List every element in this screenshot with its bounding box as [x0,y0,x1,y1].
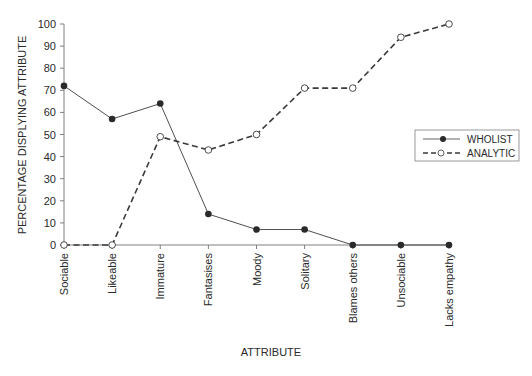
data-point [109,242,116,249]
filled-circle-marker-icon [440,136,446,142]
data-point [157,100,164,107]
data-point [301,85,308,92]
y-tick-label: 50 [44,129,56,141]
y-tick-label: 80 [44,62,56,74]
y-tick-label: 30 [44,173,56,185]
y-tick-label: 100 [38,18,56,30]
x-tick-label: Immature [154,253,166,299]
series-analytic [61,21,453,249]
x-tick-label: Solitary [299,253,311,290]
x-tick-label: Lacks empathy [443,253,455,327]
data-point [349,242,356,249]
data-point [301,226,308,233]
data-point [446,242,453,249]
y-tick-label: 60 [44,106,56,118]
data-point [349,85,356,92]
open-circle-marker-icon [438,150,444,156]
series-wholist [61,83,453,249]
x-axis-title: ATTRIBUTE [241,346,301,358]
y-tick-label: 0 [50,239,56,251]
data-point [253,226,260,233]
legend: WHOLIST ANALYTIC [415,130,519,161]
series-layer [61,21,453,249]
legend-label-wholist: WHOLIST [467,134,513,145]
x-tick-label: Unsociable [395,253,407,307]
y-axis-title: PERCENTAGE DISPLYING ATTRIBUTE [16,36,28,235]
line-chart: 0102030405060708090100 SociableLikeableI… [0,0,532,376]
legend-label-analytic: ANALYTIC [467,148,515,159]
data-point [398,242,405,249]
y-tick-label: 90 [44,40,56,52]
x-tick-label: Blames others [347,253,359,324]
y-tick-label: 40 [44,151,56,163]
data-point [205,211,212,218]
y-tick-label: 10 [44,217,56,229]
data-point [157,133,164,140]
data-point [253,131,260,138]
x-axis: SociableLikeableImmatureFantasisesMoodyS… [58,245,455,327]
y-tick-label: 20 [44,195,56,207]
x-tick-label: Moody [251,253,263,287]
x-tick-label: Fantasises [202,253,214,307]
x-tick-label: Sociable [58,253,70,295]
data-point [398,34,405,41]
data-point [109,116,116,123]
data-point [205,147,212,154]
data-point [61,242,68,249]
y-axis: 0102030405060708090100 [38,18,64,251]
data-point [61,83,68,90]
series-line [64,86,449,245]
x-tick-label: Likeable [106,253,118,294]
data-point [446,21,453,28]
y-tick-label: 70 [44,84,56,96]
